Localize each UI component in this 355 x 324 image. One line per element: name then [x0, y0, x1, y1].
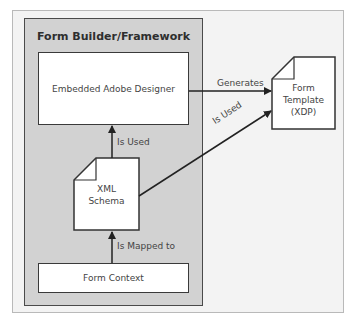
form-template-label: Form Template (XDP)	[272, 82, 335, 118]
generates-label: Generates	[217, 78, 264, 88]
form-template-line2: Template	[272, 94, 335, 106]
diagram-shapes	[0, 0, 355, 324]
xml-schema-line2: Schema	[74, 195, 139, 207]
xml-schema-label: XML Schema	[74, 183, 139, 207]
form-template-line3: (XDP)	[272, 106, 335, 118]
is-mapped-to-label: Is Mapped to	[117, 241, 175, 251]
form-template-line1: Form	[272, 82, 335, 94]
arrow-schema-to-template	[139, 111, 271, 196]
is-used-label-vertical: Is Used	[117, 137, 150, 147]
xml-schema-line1: XML	[74, 183, 139, 195]
